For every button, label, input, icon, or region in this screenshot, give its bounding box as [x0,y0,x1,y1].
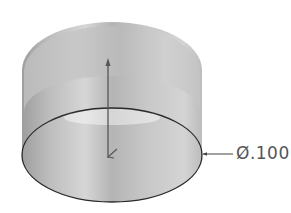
dimension-arrow-icon [203,152,208,155]
cylinder-diagram [0,0,291,213]
diameter-dimension-label: Ø.100 [236,143,290,163]
